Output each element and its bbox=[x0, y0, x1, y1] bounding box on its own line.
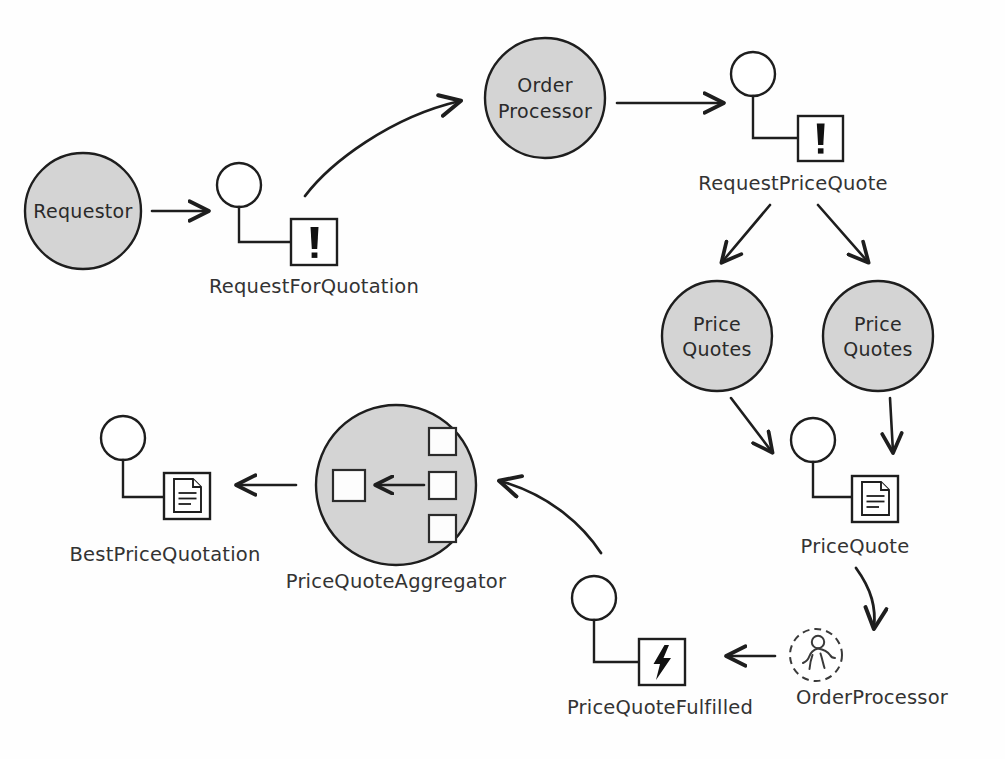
price-quotes-right-label-line1: Price bbox=[854, 313, 902, 335]
request-price-quote-caption: RequestPriceQuote bbox=[698, 172, 887, 195]
price-quotes-left-label-line1: Price bbox=[693, 313, 741, 335]
command-exclamation-icon bbox=[311, 227, 319, 258]
order-processor-saga-caption: OrderProcessor bbox=[796, 686, 949, 709]
node-price-quotes-right[interactable]: Price Quotes bbox=[823, 281, 933, 391]
price-quote-endpoint-circle bbox=[791, 418, 835, 462]
node-order-processor[interactable]: Order Processor bbox=[485, 38, 605, 158]
request-price-quote-endpoint-circle bbox=[731, 52, 775, 96]
price-quotes-right-circle bbox=[823, 281, 933, 391]
best-price-quotation-endpoint-circle bbox=[101, 416, 145, 460]
best-price-quotation-caption: BestPriceQuotation bbox=[70, 543, 261, 566]
price-quotes-right-label-line2: Quotes bbox=[843, 338, 912, 360]
price-quotes-left-circle bbox=[662, 281, 772, 391]
aggregator-input-square-1 bbox=[429, 428, 456, 455]
aggregator-input-square-2 bbox=[429, 472, 456, 499]
flow-diagram-canvas: Requestor RequestForQuotation Order Proc… bbox=[0, 0, 1005, 759]
order-processor-circle bbox=[485, 38, 605, 158]
price-quote-fulfilled-endpoint-circle bbox=[572, 576, 616, 620]
order-processor-label-line2: Processor bbox=[498, 100, 592, 122]
diagram-root: Requestor RequestForQuotation Order Proc… bbox=[0, 0, 1005, 759]
requestor-label: Requestor bbox=[33, 200, 132, 222]
node-price-quotes-left[interactable]: Price Quotes bbox=[662, 281, 772, 391]
document-icon bbox=[174, 479, 201, 512]
order-processor-label-line1: Order bbox=[517, 74, 573, 96]
node-requestor[interactable]: Requestor bbox=[25, 153, 141, 269]
price-quote-fulfilled-caption: PriceQuoteFulfilled bbox=[567, 696, 753, 719]
request-for-quotation-endpoint-circle bbox=[217, 163, 261, 207]
price-quotes-left-label-line2: Quotes bbox=[682, 338, 751, 360]
price-quote-caption: PriceQuote bbox=[801, 535, 910, 558]
aggregator-output-square bbox=[333, 470, 365, 501]
aggregator-input-square-3 bbox=[429, 515, 456, 542]
price-quote-aggregator-caption: PriceQuoteAggregator bbox=[286, 570, 507, 593]
command-exclamation-icon bbox=[817, 124, 825, 154]
request-for-quotation-caption: RequestForQuotation bbox=[209, 275, 419, 298]
document-icon bbox=[862, 482, 889, 515]
